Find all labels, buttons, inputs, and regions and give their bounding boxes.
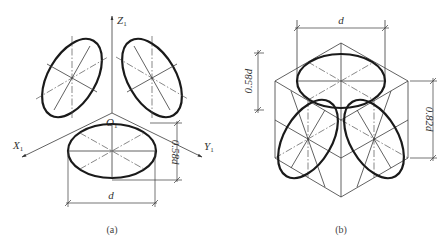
dimension-height-a-label: 0.58d <box>170 140 182 165</box>
figure-b: d 0.58d 0.82d (b) <box>242 14 437 236</box>
caption-b: (b) <box>335 224 347 236</box>
figure-a: Z1 X1 Y1 O1 <box>12 14 214 236</box>
x-axis-label: X1 <box>12 139 24 153</box>
dimension-left-b-label: 0.58d <box>242 68 254 93</box>
top-face-lines <box>297 20 385 120</box>
y-axis-label: Y1 <box>204 140 214 154</box>
dimension-left-b <box>254 50 264 113</box>
left-ellipse-lines <box>36 36 108 120</box>
caption-a: (a) <box>106 224 117 236</box>
z-axis-label: Z1 <box>117 14 127 28</box>
right-ellipse-lines <box>116 36 188 120</box>
dimension-width-a-label: d <box>108 189 114 201</box>
isometric-ellipse-diagram: Z1 X1 Y1 O1 <box>0 0 447 248</box>
dimension-width-b-label: d <box>338 14 344 26</box>
dimension-right-b-label: 0.82d <box>424 107 436 132</box>
